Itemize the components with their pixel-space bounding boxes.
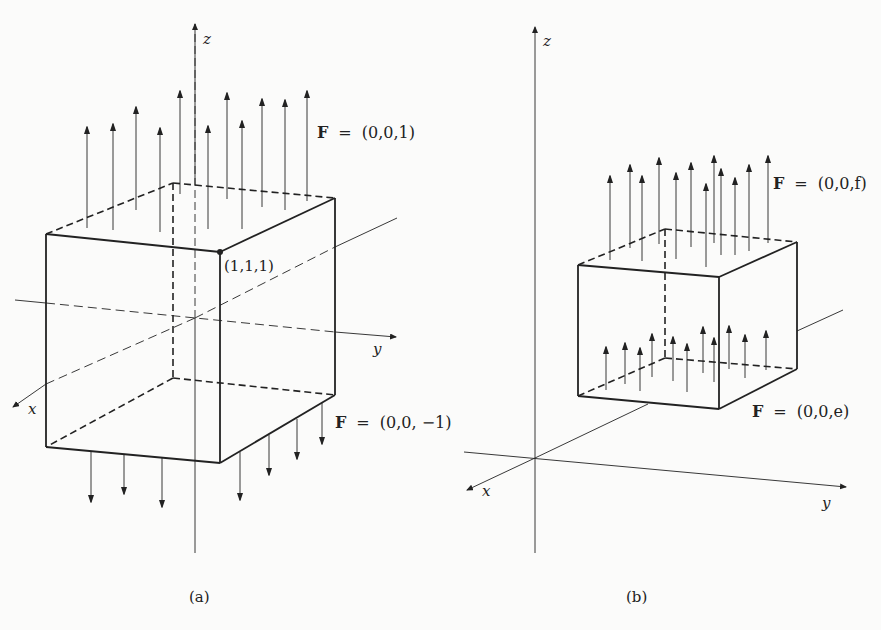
field-symbol: F [773,174,785,193]
cube-b-hidden-edges [578,229,797,396]
corner-point [217,249,223,255]
field-value: (0,0,e) [797,402,849,421]
y-axis-label-a: y [372,340,382,358]
panel-b [464,27,846,553]
x-axis-label-b: x [482,482,491,500]
field-symbol: F [335,413,347,432]
field-label-bottom-a: F = (0,0, −1) [335,413,451,432]
caption-b: (b) [626,588,647,606]
field-label-bottom-b: F = (0,0,e) [752,402,849,421]
field-value: (0,0,1) [362,123,415,142]
cube-a-hidden-edges [46,183,335,447]
field-label-top-a: F = (0,0,1) [317,123,415,142]
bottom-field-arrows-b [606,325,766,392]
y-axis-neg [15,300,46,303]
equals-sign: = [356,413,369,432]
field-value: (0,0,f) [818,174,867,193]
y-axis-hidden [46,303,335,332]
bottom-field-arrows-a [91,403,322,508]
field-value: (0,0, −1) [380,413,452,432]
cube-a-visible-edges [46,198,335,463]
z-axis-label-a: z [202,30,211,48]
equals-sign: = [773,402,786,421]
corner-label: (1,1,1) [224,257,274,275]
diagonal-line-b-right [797,310,843,331]
field-label-top-b: F = (0,0,f) [773,174,867,193]
x-axis-b [467,458,535,490]
cube-b-visible-edges [578,242,797,409]
y-axis-arrow [335,332,396,337]
diagonal-line [335,218,397,247]
panel-a [13,24,397,553]
equals-sign: = [794,174,807,193]
diagonal-line-b [535,404,648,458]
x-axis-label-a: x [28,400,37,418]
z-axis-label-b: z [542,32,551,50]
equals-sign: = [338,123,351,142]
y-axis-label-b: y [821,494,831,512]
top-field-arrows-a [87,90,307,232]
caption-a: (a) [189,588,210,606]
top-field-arrows-b [610,155,768,267]
figure-canvas: z y x (1,1,1) F = (0,0,1) F = (0,0, −1) … [0,0,881,630]
y-axis-b [464,452,846,487]
field-symbol: F [752,402,764,421]
field-symbol: F [317,123,329,142]
